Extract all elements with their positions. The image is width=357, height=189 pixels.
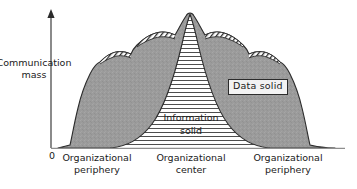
y-axis-title-line1: Communication [0,57,71,68]
x-category-label-left-periphery: Organizational periphery [49,152,145,177]
x-category-left-line1: Organizational [62,152,131,163]
x-category-right-line1: Organizational [253,152,322,163]
y-axis-title-line2: mass [22,69,47,80]
x-category-center-line1: Organizational [156,152,225,163]
information-solid-callout: Information solid [145,112,237,138]
x-category-left-line2: periphery [74,164,120,175]
x-category-center-line2: center [176,164,207,175]
x-category-label-center: Organizational center [143,152,239,177]
x-category-right-line2: periphery [265,164,311,175]
y-axis-title: Communication mass [0,57,80,81]
information-solid-callout-line1: Information [164,112,219,123]
information-solid-callout-line2: solid [180,125,202,136]
x-category-label-right-periphery: Organizational periphery [240,152,336,177]
data-solid-callout: Data solid [228,79,288,95]
communication-mass-figure: Communication mass 0 Organizational peri… [0,0,357,189]
y-axis-arrow-icon [47,9,54,18]
